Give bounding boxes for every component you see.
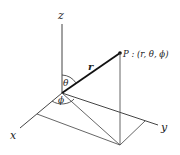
y-axis (62, 93, 158, 125)
spherical-coordinates-diagram: z x y r P : (r, θ, ϕ) θ ϕ (0, 0, 180, 155)
x-parallel-line (37, 114, 120, 145)
phi-label: ϕ (58, 95, 64, 105)
projection-line (62, 93, 120, 145)
x-axis-label: x (10, 129, 17, 142)
y-parallel-line (120, 121, 145, 145)
theta-label: θ (63, 78, 69, 88)
radius-label: r (88, 61, 94, 72)
y-axis-label: y (160, 121, 168, 134)
diagram-canvas: z x y r P : (r, θ, ϕ) θ ϕ (0, 0, 180, 155)
x-axis (20, 93, 62, 128)
point-p-label: P : (r, θ, ϕ) (122, 49, 168, 59)
z-axis-label: z (57, 9, 64, 22)
radius-vector (62, 53, 120, 93)
